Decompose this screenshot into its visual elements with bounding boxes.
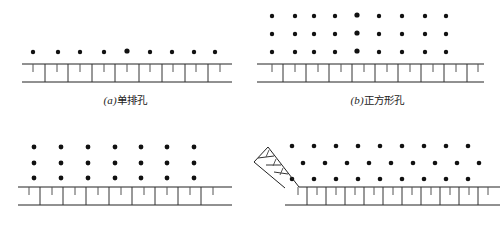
panel-c-drawing [0, 121, 251, 213]
dot-row-1 [31, 48, 217, 54]
dot-row-3 [290, 177, 471, 182]
dot-row-3 [270, 48, 448, 54]
band-outline [18, 187, 232, 205]
panel-d-plum-blossom: (d)梅花形孔 [252, 121, 503, 242]
figure-root: (a)单排孔 [0, 0, 503, 242]
band-ticks [29, 187, 213, 195]
panel-a-caption: (a)单排孔 [0, 92, 251, 107]
angled-band [254, 147, 299, 188]
panel-c-rectangular: (c)矩形孔 [0, 121, 251, 242]
panel-a-label: (a) [103, 94, 116, 106]
panel-b-caption-text: 正方形孔 [364, 94, 405, 106]
band-ticks [33, 64, 220, 72]
band-outline [257, 64, 484, 82]
dot-row-1 [32, 145, 197, 150]
band-dividers [283, 64, 467, 82]
panel-b-square: (b)正方形孔 [252, 0, 503, 121]
dot-row-2 [270, 30, 448, 36]
panel-b-label: (b) [350, 94, 363, 106]
dot-row-1 [290, 144, 471, 149]
panel-d-drawing [252, 121, 503, 213]
dot-row-1 [270, 12, 448, 18]
panel-b-caption: (b)正方形孔 [252, 92, 503, 107]
dot-row-2 [301, 161, 482, 166]
dot-row-2 [32, 161, 197, 166]
panel-a-caption-text: 单排孔 [117, 94, 148, 106]
panel-b-drawing [252, 0, 503, 92]
panel-a-single-row: (a)单排孔 [0, 0, 251, 121]
dot-row-3 [32, 176, 197, 181]
panel-a-drawing [0, 0, 251, 92]
